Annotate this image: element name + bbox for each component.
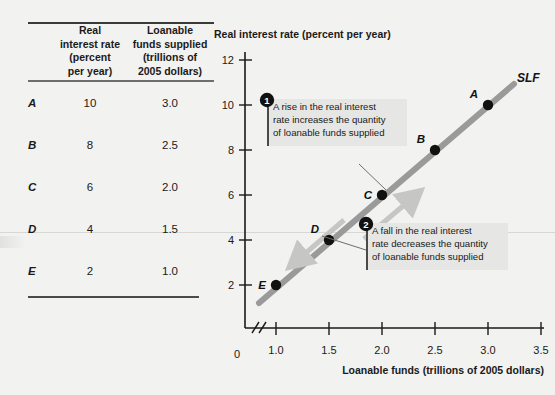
callout-1-leader-line [359, 164, 386, 190]
table-row: E 2 1.0 [28, 250, 214, 292]
y-tick-label-4: 4 [228, 234, 234, 246]
table-row: D 4 1.5 [28, 208, 214, 250]
row-funds-e: 1.0 [126, 250, 214, 292]
row-key-e: E [28, 250, 54, 292]
x-tick-label-2-5: 2.5 [427, 344, 442, 356]
x-tick-label-3-0: 3.0 [480, 344, 495, 356]
row-key-c: C [28, 166, 54, 208]
callout-1-line-3: of loanable funds supplied [273, 127, 384, 138]
callout-2-line-1: A fall in the real interest [372, 225, 472, 236]
row-rate-a: 10 [54, 82, 126, 124]
x-tick-label-2-0: 2.0 [374, 344, 389, 356]
data-point-label-d: D [311, 223, 319, 235]
x-tick-label-1-5: 1.5 [321, 344, 336, 356]
data-point-label-e: E [258, 279, 266, 291]
callout-2-line-3: of loanable funds supplied [372, 251, 483, 262]
callout-2-line-2: rate decreases the quantity [372, 238, 488, 249]
row-key-b: B [28, 124, 54, 166]
table-body-wrapper: A 10 3.0 B 8 2.5 C 6 2.0 D 4 1.5 [28, 82, 214, 292]
header-rate-line-3: (percent [54, 51, 126, 65]
header-key [28, 24, 54, 78]
row-rate-c: 6 [54, 166, 126, 208]
callout-2-badge-number: 2 [363, 219, 368, 230]
header-real-interest-rate: Real interest rate (percent per year) [54, 24, 126, 78]
table-header: Real interest rate (percent per year) Lo… [28, 24, 214, 78]
header-rate-line-2: interest rate [54, 38, 126, 52]
chart-svg: Real interest rate (percent per year) 12… [214, 24, 555, 384]
data-point-a [483, 100, 493, 110]
callout-1: A rise in the real interest rate increas… [260, 93, 407, 146]
slf-curve-label: SLF [517, 71, 540, 85]
row-rate-e: 2 [54, 250, 126, 292]
loanable-funds-table: Real interest rate (percent per year) Lo… [28, 22, 214, 298]
table-bottom-rule [28, 296, 199, 298]
data-point-label-c: C [364, 189, 373, 201]
x-tick-label-1-0: 1.0 [268, 344, 283, 356]
callout-1-badge-number: 1 [264, 95, 270, 106]
y-tick-label-6: 6 [228, 189, 234, 201]
figure-container: Real interest rate (percent per year) Lo… [0, 0, 555, 395]
data-point-c [377, 190, 387, 200]
slf-chart: Real interest rate (percent per year) 12… [214, 24, 555, 384]
y-tick-label-10: 10 [222, 99, 234, 111]
callout-1-line-2: rate increases the quantity [273, 114, 386, 125]
y-tick-label-2: 2 [228, 279, 234, 291]
table: Real interest rate (percent per year) Lo… [28, 24, 214, 78]
callout-2: A fall in the real interest rate decreas… [359, 217, 508, 270]
x-axis-title: Loanable funds (trillions of 2005 dollar… [342, 364, 544, 376]
header-loanable-funds-supplied: Loanable funds supplied (trillions of 20… [126, 24, 214, 78]
x-axis-tick-labels: 1.0 1.5 2.0 2.5 3.0 3.5 [268, 344, 548, 356]
callout-1-line-1: A rise in the real interest [273, 101, 376, 112]
header-funds-line-1: Loanable [126, 24, 214, 38]
header-funds-line-4: 2005 dollars) [126, 65, 214, 79]
data-point-d [324, 235, 334, 245]
table-row: B 8 2.5 [28, 124, 214, 166]
header-rate-line-4: per year) [54, 65, 126, 79]
origin-label: 0 [234, 348, 240, 360]
header-funds-line-2: funds supplied [126, 38, 214, 52]
data-point-label-a: A [469, 88, 478, 100]
x-tick-label-3-5: 3.5 [533, 344, 548, 356]
row-key-a: A [28, 82, 54, 124]
table-row: C 6 2.0 [28, 166, 214, 208]
scan-artifact-smudge [0, 236, 26, 248]
row-key-d: D [28, 208, 54, 250]
data-point-e [271, 280, 281, 290]
row-rate-d: 4 [54, 208, 126, 250]
row-funds-c: 2.0 [126, 166, 214, 208]
y-tick-label-12: 12 [222, 54, 234, 66]
y-tick-label-8: 8 [228, 144, 234, 156]
y-axis-tick-labels: 12 10 8 6 4 2 [222, 54, 234, 291]
table-header-row: Real interest rate (percent per year) Lo… [28, 24, 214, 78]
row-funds-d: 1.5 [126, 208, 214, 250]
data-point-label-b: B [417, 133, 425, 145]
header-rate-line-1: Real [54, 24, 126, 38]
row-funds-b: 2.5 [126, 124, 214, 166]
data-point-b [430, 145, 440, 155]
row-funds-a: 3.0 [126, 82, 214, 124]
y-axis-title: Real interest rate (percent per year) [214, 28, 391, 40]
row-rate-b: 8 [54, 124, 126, 166]
header-funds-line-3: (trillions of [126, 51, 214, 65]
table-body: A 10 3.0 B 8 2.5 C 6 2.0 D 4 1.5 [28, 82, 214, 292]
table-row: A 10 3.0 [28, 82, 214, 124]
